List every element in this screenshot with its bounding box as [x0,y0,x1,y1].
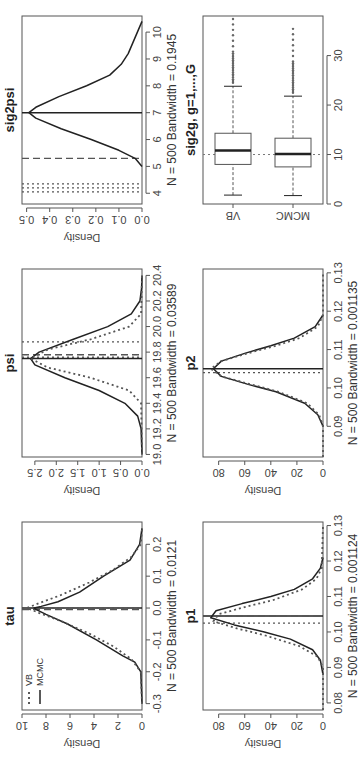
y-tick-label: 0.2 [88,214,103,226]
y-tick-label: 0.0 [134,214,149,226]
y-tick-label: 20 [291,467,303,479]
x-tick-label: 7 [151,110,163,116]
y-tick-label: 80 [213,467,225,479]
y-tick-label: 40 [265,467,277,479]
x-tick-label: 0.13 [332,515,344,536]
x-axis: 0.090.100.110.120.13 [327,262,344,437]
plot-frame [203,16,323,204]
y-tick-label: 0 [320,467,326,479]
x-tick-label: -0.1 [151,630,163,649]
y-axis-label: Density [63,738,100,750]
plot-title: p1 [183,608,198,623]
y-tick-label: 20 [291,720,303,732]
x-tick-label: 19.0 [151,444,163,465]
x-tick-label: -0.2 [151,662,163,681]
x-axis: 19.019.219.419.619.820.020.220.4 [146,265,163,465]
x-tick-label: 0 [332,201,344,207]
y-tick-label: 4 [91,720,97,732]
x-tick-label: 0.12 [332,550,344,571]
y-tick-label: 0.1 [111,214,126,226]
x-tick-label: 10 [332,148,344,160]
x-tick-label: 0.09 [332,416,344,437]
x-tick-label: 4 [151,190,163,196]
x-tick-label: 9 [151,56,163,62]
x-tick-label: 19.4 [151,393,163,414]
x-tick-label: 5 [151,163,163,169]
y-axis: 0246810 [16,714,145,732]
y-axis: 020406080 [213,714,327,732]
y-tick-label: 0.0 [134,467,149,479]
y-tick-label: 2.0 [49,467,64,479]
y-tick-label: 0.5 [19,214,34,226]
density-curve-mcmc [34,528,142,703]
plot-sig2psi: sig2psi456789100.00.10.20.30.40.5Density… [0,1,181,254]
y-tick-label: 80 [213,720,225,732]
y-tick-label: 60 [239,720,251,732]
x-tick-label: 8 [151,83,163,89]
y-axis-label: Density [244,738,281,750]
y-tick-label: 0.5 [113,467,128,479]
x-tick-label: -0.3 [151,694,163,713]
plot-frame [22,269,142,457]
y-axis: 0.00.51.01.52.02.5 [27,461,149,479]
x-tick-label: 0.09 [332,657,344,678]
x-axis: -0.3-0.2-0.10.00.10.2 [146,537,163,713]
y-tick-label: 40 [265,720,277,732]
y-tick-label: 0.4 [42,214,57,226]
plot-psi: psi19.019.219.419.619.820.020.220.40.00.… [0,254,181,507]
x-tick-label: 0.2 [151,537,163,552]
category-label: VB [226,210,241,222]
x-axis: 0102030 [327,49,344,207]
y-axis-label: Density [63,232,100,244]
legend-label: MCMC [35,658,45,686]
x-tick-label: 0.10 [332,377,344,398]
density-curve-mcmc [31,275,142,454]
plot-p1: p10.080.090.100.110.120.13020406080Densi… [181,507,362,760]
x-tick-label: 19.8 [151,341,163,362]
x-tick-label: 20 [332,99,344,111]
x-tick-label: 20.4 [151,265,163,286]
y-axis-label: Density [63,485,100,497]
y-tick-label: 1.5 [70,467,85,479]
y-tick-label: 1.0 [91,467,106,479]
x-axis: 0.080.090.100.110.120.13 [327,515,344,714]
y-axis: 020406080 [213,461,327,479]
x-tick-label: 0.10 [332,621,344,642]
density-curve-vb [213,526,323,711]
x-tick-label: 19.6 [151,367,163,388]
figure-rotated: tau-0.3-0.2-0.10.00.10.20246810DensityN … [0,0,363,760]
plot-p2: p20.090.100.110.120.13020406080DensityN … [181,254,362,507]
y-tick-label: 2 [115,720,121,732]
boxplot-mcmc [275,28,311,196]
density-curve-vb [211,273,323,457]
y-tick-label: 0 [320,720,326,732]
plot-title: psi [2,354,17,373]
x-tick-label: 0.11 [332,339,344,360]
y-axis: 0.00.10.20.30.40.5 [19,208,150,226]
legend-label: VB [24,674,34,686]
x-tick-label: 20.0 [151,316,163,337]
y-axis-label: Density [244,485,281,497]
boxplot-vb [215,18,251,195]
x-tick-label: 10 [151,26,163,38]
y-tick-label: 0.3 [65,214,80,226]
plot-frame [22,16,142,204]
x-tick-label: 20.2 [151,290,163,311]
x-tick-label: 6 [151,136,163,142]
x-tick-label: 0.11 [332,586,344,607]
plot-title: sig2g, g=1,...,G [183,64,198,156]
density-curve-mcmc [213,315,323,426]
x-tick-label: 30 [332,49,344,61]
x-axis-label: N = 500 Bandwidth = 0.001124 [346,533,360,698]
plot-title: tau [2,606,17,626]
y-tick-label: 0 [139,720,145,732]
category-label: MCMC [276,210,310,222]
density-curve-vb [31,275,142,454]
x-axis-label: N = 500 Bandwidth = 0.03589 [165,283,179,442]
x-axis-label: N = 500 Bandwidth = 0.0121 [165,540,179,692]
x-tick-label: 0.12 [332,300,344,321]
x-tick-label: 0.0 [151,600,163,615]
legend: VBMCMC [24,658,45,704]
x-axis: 45678910 [146,26,163,196]
x-axis-label: N = 500 Bandwidth = 0.001135 [346,280,360,445]
